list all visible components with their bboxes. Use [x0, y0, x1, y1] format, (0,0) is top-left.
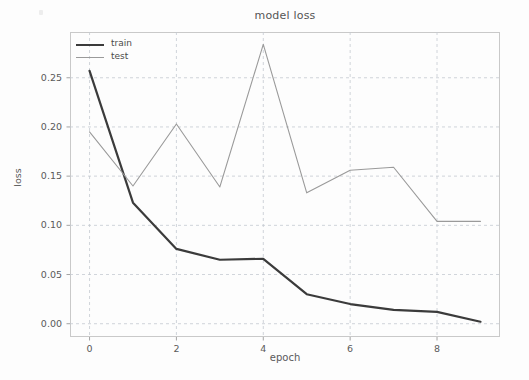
chart-title: model loss — [70, 9, 500, 22]
legend-line-test-icon — [76, 57, 104, 58]
legend-line-train-icon — [76, 44, 104, 46]
legend-item-train: train — [76, 38, 162, 51]
model-loss-figure: model loss 0.000.050.100.150.200.25 0246… — [0, 0, 529, 380]
y-tick-label: 0.15 — [18, 170, 62, 181]
y-tick-label: 0.05 — [18, 269, 62, 280]
plot-area — [70, 32, 500, 337]
y-axis-label: loss — [12, 148, 23, 208]
y-tick-label: 0.00 — [18, 318, 62, 329]
y-tick-label: 0.25 — [18, 72, 62, 83]
legend-item-test: test — [76, 51, 162, 64]
y-tick-label: 0.10 — [18, 219, 62, 230]
chart-legend: train test — [76, 38, 162, 64]
chart-screenshot: model loss 0.000.050.100.150.200.25 0246… — [0, 0, 529, 380]
x-axis-label: epoch — [70, 352, 500, 363]
legend-label-train: train — [111, 38, 132, 48]
y-tick-label: 0.20 — [18, 121, 62, 132]
scan-artifact — [39, 10, 43, 15]
legend-label-test: test — [111, 51, 128, 61]
